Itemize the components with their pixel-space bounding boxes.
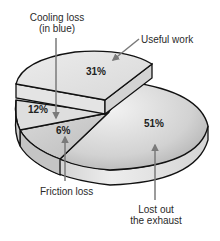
label-cooling-line2: (in blue) [28,23,86,34]
label-exhaust-line2: the exhaust [126,215,186,226]
label-friction-loss: Friction loss [40,186,93,197]
pct-useful-work: 31% [86,66,106,77]
pie-chart: Cooling loss (in blue) Useful work Frict… [0,0,220,241]
pct-friction: 6% [56,125,70,136]
label-exhaust: Lost out the exhaust [126,204,186,226]
label-cooling-loss: Cooling loss (in blue) [28,12,86,34]
label-exhaust-line1: Lost out [126,204,186,215]
pct-exhaust: 51% [144,118,164,129]
label-cooling-line1: Cooling loss [28,12,86,23]
label-useful-work: Useful work [141,34,193,45]
pct-cooling: 12% [28,104,48,115]
